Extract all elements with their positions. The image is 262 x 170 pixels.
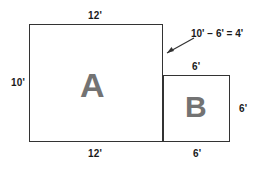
dimension-label-left-a: 10': [11, 78, 25, 88]
leader-arrow-icon: [158, 36, 196, 58]
region-a-letter: A: [80, 68, 105, 102]
dimension-label-top-b: 6': [192, 62, 200, 72]
diagram-canvas: A B 12' 10' 12' 6' 6' 6' 10' − 6' = 4': [0, 0, 262, 170]
dimension-label-bottom-a: 12': [88, 149, 102, 159]
dimension-label-right-b: 6': [239, 104, 247, 114]
region-b-letter: B: [185, 92, 207, 122]
step-height-equation-label: 10' − 6' = 4': [191, 29, 243, 39]
dimension-label-top-a: 12': [88, 11, 102, 21]
dimension-label-bottom-b: 6': [193, 149, 201, 159]
